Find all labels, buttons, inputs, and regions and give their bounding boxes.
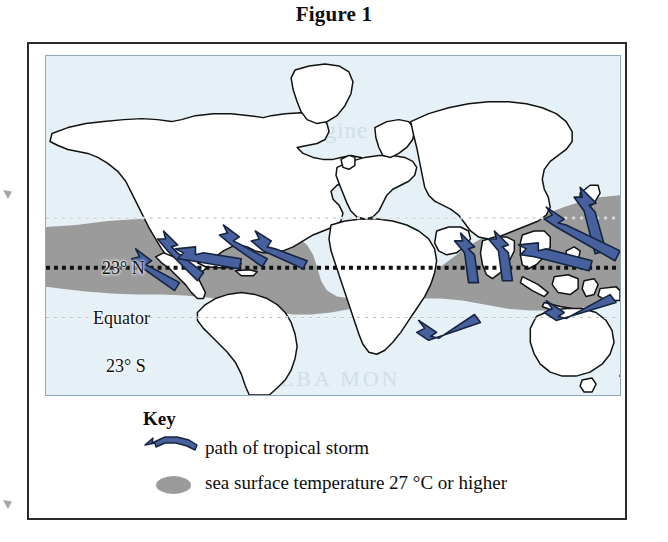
map-key: Key path of tropical storm sea surface t… (143, 408, 176, 502)
page-edge-artifact-bottom (3, 500, 12, 509)
latitude-label-23n: 23° N (102, 258, 145, 279)
world-map: engine SKY SKY ALBA MON (45, 55, 621, 396)
key-title: Key (143, 408, 176, 430)
figure-title: Figure 1 (0, 2, 668, 27)
key-item-sst: sea surface temperature 27 °C or higher (143, 469, 176, 502)
latitude-label-23s: 23° S (106, 356, 146, 377)
key-item-storm-path: path of tropical storm (143, 434, 176, 467)
page-edge-artifact-top (3, 190, 12, 199)
map-graphics (46, 56, 620, 395)
key-label-sst: sea surface temperature 27 °C or higher (205, 472, 507, 494)
latitude-label-equator: Equator (93, 308, 150, 329)
key-label-storm-path: path of tropical storm (205, 437, 369, 459)
land-scandinavia (375, 120, 415, 158)
land-tasmania (580, 378, 596, 392)
sst-swatch-icon (156, 476, 191, 494)
storm-path-arrow-icon (143, 434, 201, 460)
storm-arrow-south-indian (417, 314, 481, 340)
